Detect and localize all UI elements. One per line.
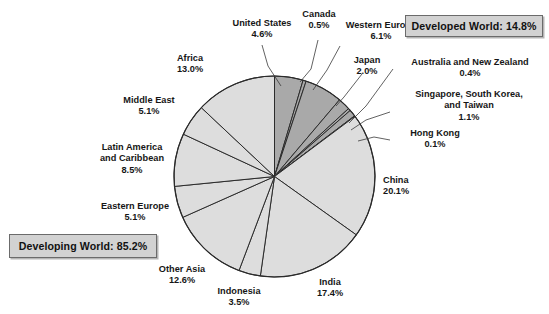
leader-line-japan [336,74,362,106]
leader-line-western-europe [313,46,340,90]
pie-slices [174,76,375,277]
slice-label-middle-east-name: Middle East [123,95,174,105]
slice-label-united-states-name: United States [233,18,292,28]
slice-label-latin-america-caribbean-name-line1: Latin America [102,142,163,152]
slice-label-india: India 17.4% [303,277,357,300]
slice-label-china-name: China [383,175,409,185]
slice-label-canada-name: Canada [302,9,335,19]
slice-label-china-pct: 20.1% [383,186,453,197]
slice-label-singapore-korea-taiwan-name-line1: Singapore, South Korea, [415,89,523,99]
slice-label-australia-new-zealand-name: Australia and New Zealand [411,57,528,67]
slice-label-indonesia-name: Indonesia [217,286,260,296]
slice-label-australia-new-zealand: Australia and New Zealand 0.4% [396,57,544,80]
slice-label-hong-kong-pct: 0.1% [392,139,478,150]
slice-label-middle-east-pct: 5.1% [108,106,190,117]
slice-label-hong-kong-name: Hong Kong [410,128,460,138]
slice-label-india-pct: 17.4% [303,288,357,299]
callout-developed-world: Developed World: 14.8% [405,15,543,37]
slice-label-africa-name: Africa [177,53,203,63]
slice-label-china: China 20.1% [383,175,453,198]
slice-label-eastern-europe-pct: 5.1% [86,212,184,223]
slice-label-hong-kong: Hong Kong 0.1% [392,128,478,151]
slice-label-other-asia: Other Asia 12.6% [143,264,221,287]
slice-label-latin-america-caribbean: Latin America and Caribbean 8.5% [84,142,180,176]
slice-label-africa: Africa 13.0% [159,53,221,76]
slice-label-japan-name: Japan [354,55,381,65]
slice-label-africa-pct: 13.0% [159,64,221,75]
slice-label-singapore-korea-taiwan: Singapore, South Korea, and Taiwan 1.1% [394,89,544,123]
slice-label-latin-america-caribbean-name-line2: and Caribbean [84,153,180,164]
slice-label-japan-pct: 2.0% [343,66,391,77]
slice-label-singapore-korea-taiwan-pct: 1.1% [394,112,544,123]
pie-chart [0,0,549,314]
slice-label-other-asia-name: Other Asia [159,264,205,274]
slice-label-middle-east: Middle East 5.1% [108,95,190,118]
slice-label-india-name: India [319,277,341,287]
slice-label-indonesia: Indonesia 3.5% [203,286,275,309]
slice-label-eastern-europe: Eastern Europe 5.1% [86,201,184,224]
slice-label-australia-new-zealand-pct: 0.4% [396,68,544,79]
leader-line-canada [300,40,318,82]
slice-label-japan: Japan 2.0% [343,55,391,78]
callout-developing-world: Developing World: 85.2% [9,234,157,258]
chart-canvas: United States 4.6% Canada 0.5% Western E… [0,0,549,314]
slice-label-eastern-europe-name: Eastern Europe [101,201,169,211]
slice-label-latin-america-caribbean-pct: 8.5% [84,165,180,176]
slice-label-indonesia-pct: 3.5% [203,297,275,308]
slice-label-other-asia-pct: 12.6% [143,275,221,286]
slice-label-singapore-korea-taiwan-name-line2: and Taiwan [394,100,544,111]
